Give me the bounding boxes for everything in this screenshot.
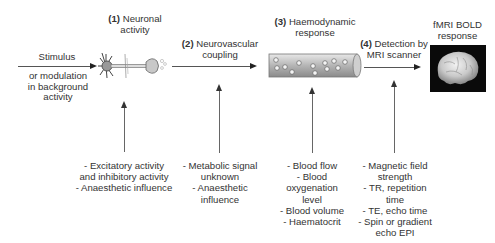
stage-1-label: Neuronal	[123, 13, 162, 24]
stage-4-title: (4) Detection by MRI scanner	[358, 38, 430, 60]
stimulus-label: Stimulus	[22, 51, 92, 62]
stage-1-title: (1) Neuronal activity	[100, 13, 170, 35]
stage-2-title: (2) Neurovascular coupling	[175, 38, 265, 60]
stage-2-label: Neurovascular	[196, 38, 258, 49]
factor-list-1: - Excitatory activity and inhibitory act…	[74, 160, 174, 194]
stage-4-label2: MRI scanner	[367, 49, 421, 60]
output-title: fMRI BOLD response	[425, 19, 490, 41]
stage-1-label2: activity	[120, 24, 149, 35]
stage-3-label2: response	[295, 27, 334, 38]
output-label2: response	[438, 30, 477, 41]
stage-2-number: (2)	[182, 38, 194, 49]
stage-3-title: (3) Haemodynamic response	[265, 16, 365, 38]
factor-list-3: - Blood flow - Blood oxygenation level -…	[277, 160, 347, 227]
stage-3-label: Haemodynamic	[289, 16, 356, 27]
factor-list-4: - Magnetic field strength - TR, repetiti…	[357, 160, 433, 238]
output-label: fMRI BOLD	[433, 19, 482, 30]
stage-4-number: (4)	[360, 38, 372, 49]
neuron-icon	[96, 48, 168, 84]
stage-2-label2: coupling	[202, 49, 238, 60]
stage-4-label: Detection by	[375, 38, 428, 49]
stage-3-number: (3)	[274, 16, 286, 27]
factor-list-2: - Metabolic signal unknown - Anaesthetic…	[180, 160, 260, 205]
blood-vessel-icon	[268, 52, 364, 80]
brain-fmri-image	[430, 45, 486, 92]
stimulus-sublabel: or modulation in background activity	[18, 71, 98, 103]
stage-1-number: (1)	[108, 13, 120, 24]
